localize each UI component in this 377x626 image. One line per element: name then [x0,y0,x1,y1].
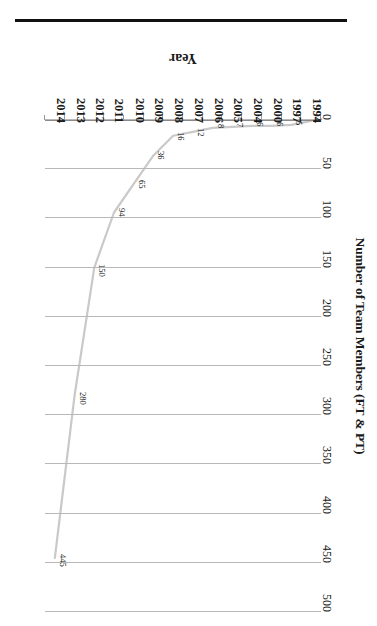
page-bottom-rule [15,19,347,22]
y-axis-tick-label-text: 400 [319,496,334,514]
y-gridline [45,562,321,563]
x-axis-title: Year [169,50,197,66]
y-gridline [45,611,321,612]
y-axis-tick-label-text: 300 [319,397,334,415]
y-axis-tick-label-text: 50 [319,157,334,169]
y-axis-tick-label: 200 [326,309,344,324]
x-axis-tick-label-text: 2014 [52,98,67,123]
data-series-line [45,120,321,612]
y-axis-title: Number of Team Members (FT & PT) [352,238,368,455]
y-axis-tick-label: 0 [326,113,332,128]
line-chart-figure: Number of Team Members (FT & PT) 0501001… [0,0,377,626]
x-axis-tick-label: 2014 [42,108,67,123]
y-axis-tick-label: 300 [326,408,344,423]
data-point-value-text: 94 [117,209,127,218]
y-axis-tick-label-text: 250 [319,348,334,366]
data-point-value-label: 6 [251,122,255,132]
data-point-value-text: 36 [156,151,166,160]
x-axis-tick-label-text: 1997 [289,98,304,123]
data-point-value-label: 7 [231,123,235,133]
y-axis-tick-label-text: 150 [319,250,334,268]
y-gridline [45,316,321,317]
data-point-value-text: 5 [294,121,304,125]
rotated-figure-container: Number of Team Members (FT & PT) 0501001… [0,0,377,626]
data-point-value-text: 12 [196,128,206,137]
y-axis-title-container: Number of Team Members (FT & PT) [343,66,377,626]
y-axis-tick-label-text: 100 [319,200,334,218]
y-axis-tick-label-text: 200 [319,299,334,317]
y-axis-tick-label: 500 [326,605,344,620]
data-point-value-label: 5 [290,121,294,131]
data-point-value-text: 8 [216,124,226,128]
x-axis-tick-label-text: 2000 [269,98,284,123]
y-axis-tick-label: 450 [326,555,344,570]
data-point-value-text: 6 [275,122,285,126]
data-point-value-text: 150 [97,264,107,277]
data-point-value-label: 445 [45,554,58,564]
data-point-value-label: 16 [168,132,177,142]
data-point-value-text: 16 [176,132,186,141]
data-point-value-text: 445 [58,554,68,567]
x-axis-tick-label-text: 2005 [230,98,245,123]
data-point-value-label: 36 [148,151,157,161]
y-gridline [45,217,321,218]
y-axis-tick-label: 150 [326,260,344,275]
x-axis-tick-label-text: 2009 [151,98,166,123]
data-point-value-label: 94 [109,209,118,219]
y-gridline [45,414,321,415]
x-axis-tick-label-text: 2011 [111,99,126,123]
data-point-value-text: 280 [78,392,88,405]
data-point-value-text: 65 [137,180,147,189]
y-gridline [45,513,321,514]
data-point-value-label: 6 [270,122,274,132]
data-point-value-label: 65 [128,180,137,190]
y-axis-tick-label: 50 [326,162,338,177]
plot-area: 0501001502002503003504004505001994199720… [45,120,321,612]
y-gridline [45,463,321,464]
data-point-value-label: 1 [310,117,314,127]
x-axis-tick-label-text: 2008 [171,98,186,123]
x-axis-tick-label-text: 2006 [210,98,225,123]
data-point-value-label: 12 [187,128,196,138]
data-point-value-label: 150 [85,264,98,274]
y-axis-tick-label: 400 [326,506,344,521]
y-gridline [45,365,321,366]
y-axis-tick-label: 100 [326,211,344,226]
x-axis-tick-label-text: 2013 [72,98,87,123]
y-axis-tick-label: 250 [326,359,344,374]
x-axis-tick-label-text: 2007 [190,98,205,123]
x-axis-tick-mark [44,115,45,120]
y-axis-tick-label-text: 450 [319,545,334,563]
y-axis-tick-label-text: 500 [319,594,334,612]
y-gridline [45,168,321,169]
y-axis-tick-label-text: 350 [319,446,334,464]
x-axis-title-container: Year [23,32,343,66]
y-axis-tick-label: 350 [326,457,344,472]
data-point-value-text: 7 [235,123,245,127]
x-axis-tick-label-text: 2004 [250,98,265,123]
x-axis-tick-label-text: 2010 [131,98,146,123]
data-point-value-label: 8 [211,124,215,134]
data-point-value-text: 1 [314,117,324,121]
data-point-value-label: 280 [65,392,78,402]
data-point-value-text: 6 [255,122,265,126]
x-axis-tick-label-text: 2012 [92,98,107,123]
